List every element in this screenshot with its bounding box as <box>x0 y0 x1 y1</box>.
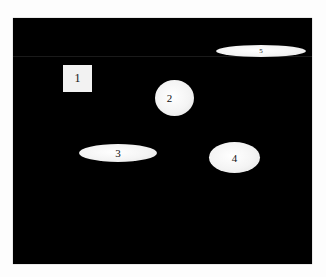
shape-1-label: 1 <box>75 71 81 86</box>
shape-2-label: 2 <box>167 92 173 104</box>
black-canvas: 5 1 2 3 4 <box>13 18 312 264</box>
shape-1-square[interactable]: 1 <box>63 65 92 92</box>
shape-5-label: 5 <box>259 47 263 55</box>
shape-3-label: 3 <box>115 147 121 159</box>
shape-3-ellipse[interactable]: 3 <box>79 144 157 162</box>
shape-5-ellipse[interactable]: 5 <box>216 45 306 57</box>
shape-4-label: 4 <box>232 152 238 164</box>
shape-4-ellipse[interactable]: 4 <box>209 142 260 173</box>
shape-2-circle[interactable]: 2 <box>155 80 194 116</box>
